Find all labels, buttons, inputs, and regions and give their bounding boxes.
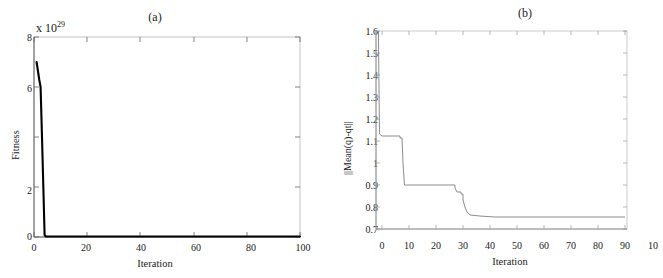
- panel-b-frame: [376, 31, 627, 229]
- panel-a: (a) x 1029 8 6 2 0 Fitness 0 20 40 60 80…: [0, 0, 330, 278]
- panel-a-ytick-marks: [34, 37, 300, 237]
- panel-a-frame: [34, 37, 300, 237]
- panel-a-xtick-marks: [34, 37, 300, 237]
- panel-a-plot: [0, 0, 330, 278]
- panel-b-plot: [330, 0, 655, 278]
- panel-a-fitness-line: [37, 62, 300, 237]
- panel-b: (b) ||Mean(q)-qt|| 1.6 1.5 1.4 1.3 1.2 1…: [330, 0, 655, 278]
- panel-b-convergence-line: [379, 31, 626, 217]
- panel-b-ytick-marks: [376, 31, 627, 229]
- panel-b-xtick-marks: [382, 31, 625, 229]
